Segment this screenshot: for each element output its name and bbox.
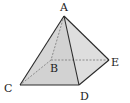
vertex-label-a: A xyxy=(59,1,69,14)
vertex-label-e: E xyxy=(111,56,119,69)
vertex-label-d: D xyxy=(80,90,89,103)
vertex-label-c: C xyxy=(4,82,12,95)
pyramid-diagram: A B C D E xyxy=(0,0,130,103)
vertex-label-b: B xyxy=(50,62,58,75)
